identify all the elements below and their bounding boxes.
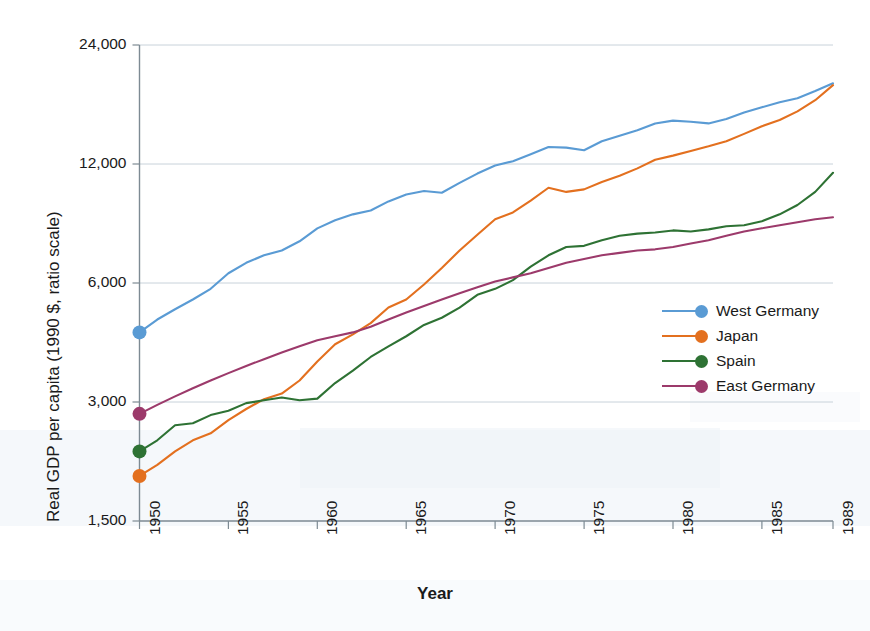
legend-item-label: East Germany xyxy=(716,377,815,395)
x-axis-tick-label: 1985 xyxy=(768,501,786,535)
legend-swatch-icon xyxy=(662,379,708,393)
legend-item-label: Spain xyxy=(716,352,756,370)
legend-item-spain[interactable]: Spain xyxy=(662,348,819,373)
start-marker-east-germany xyxy=(133,407,147,421)
start-marker-spain xyxy=(133,444,147,458)
start-marker-west-germany xyxy=(133,325,147,339)
legend-dot-icon xyxy=(695,355,708,368)
chart-page: 24,00012,0006,0003,0001,500 195019551960… xyxy=(0,0,870,631)
legend-swatch-icon xyxy=(662,354,708,368)
x-axis-tick-label: 1989 xyxy=(839,501,857,535)
legend-swatch-icon xyxy=(662,304,708,318)
legend-line-icon xyxy=(662,360,696,362)
x-axis-tick-label: 1955 xyxy=(234,501,252,535)
chart-legend: West GermanyJapanSpainEast Germany xyxy=(662,298,819,398)
x-axis-tick-label: 1980 xyxy=(679,501,697,535)
legend-dot-icon xyxy=(695,330,708,343)
start-marker-japan xyxy=(133,469,147,483)
legend-item-east-germany[interactable]: East Germany xyxy=(662,373,819,398)
legend-item-west-germany[interactable]: West Germany xyxy=(662,298,819,323)
legend-line-icon xyxy=(662,310,696,312)
legend-line-icon xyxy=(662,385,696,387)
x-axis-tick-label: 1970 xyxy=(501,501,519,535)
legend-swatch-icon xyxy=(662,329,708,343)
series-line-japan xyxy=(140,85,834,476)
legend-item-label: West Germany xyxy=(716,302,819,320)
legend-dot-icon xyxy=(695,380,708,393)
y-axis-title: Real GDP per capita (1990 $, ratio scale… xyxy=(44,22,64,522)
x-axis-tick-label: 1965 xyxy=(412,501,430,535)
x-axis-tick-label: 1975 xyxy=(590,501,608,535)
legend-item-label: Japan xyxy=(716,327,758,345)
x-axis-title: Year xyxy=(0,584,870,604)
x-axis-tick-label: 1950 xyxy=(146,501,164,535)
legend-item-japan[interactable]: Japan xyxy=(662,323,819,348)
legend-dot-icon xyxy=(695,305,708,318)
x-axis-tick-label: 1960 xyxy=(323,501,341,535)
series-line-west-germany xyxy=(140,83,834,332)
legend-line-icon xyxy=(662,335,696,337)
series-lines xyxy=(140,83,834,476)
